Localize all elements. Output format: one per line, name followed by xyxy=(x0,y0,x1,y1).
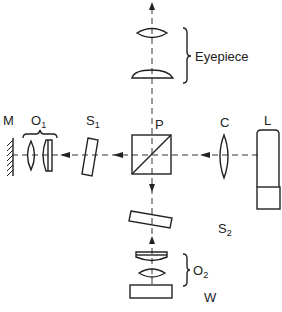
m-label: M xyxy=(3,113,14,128)
optical-diagram: Eyepiece P C L S1 O1 xyxy=(0,0,282,312)
beam-splitter-p: P xyxy=(132,117,171,174)
arrow-up-icon xyxy=(149,236,155,244)
mirror-hatching xyxy=(7,140,13,176)
workpiece-block xyxy=(130,285,172,298)
l-label: L xyxy=(264,113,271,128)
condenser-c: C xyxy=(220,115,229,178)
s2-label: S2 xyxy=(218,221,232,238)
condenser-lens xyxy=(220,135,228,178)
c-label: C xyxy=(220,115,229,130)
arrow-left-icon xyxy=(113,152,123,158)
o2-brace xyxy=(183,254,190,286)
o2-label: O2 xyxy=(193,263,208,280)
arrow-up-icon xyxy=(149,2,155,10)
s1-label: S1 xyxy=(86,113,100,130)
sample-plate-s2: S2 xyxy=(129,211,232,238)
o1-label: O1 xyxy=(31,113,46,130)
o1-brace xyxy=(23,130,57,138)
p-label: P xyxy=(155,117,164,132)
eyepiece-brace xyxy=(183,28,191,83)
sample-plate-s1: S1 xyxy=(82,113,100,176)
arrow-down-icon xyxy=(149,184,155,192)
lamp-body xyxy=(257,130,279,187)
eyepiece-label: Eyepiece xyxy=(195,49,248,64)
s1-plate xyxy=(82,138,98,176)
objective-o2: O2 xyxy=(136,252,208,286)
lamp-l: L xyxy=(257,113,280,209)
arrow-left-icon xyxy=(60,152,70,158)
s2-plate xyxy=(129,211,172,228)
arrow-left-icon xyxy=(200,152,210,158)
lamp-base xyxy=(257,187,280,209)
mirror-m: M xyxy=(3,113,14,176)
w-label: W xyxy=(204,290,217,305)
objective-o1: O1 xyxy=(23,113,57,171)
eyepiece: Eyepiece xyxy=(132,28,248,83)
workpiece-w: W xyxy=(130,285,217,305)
